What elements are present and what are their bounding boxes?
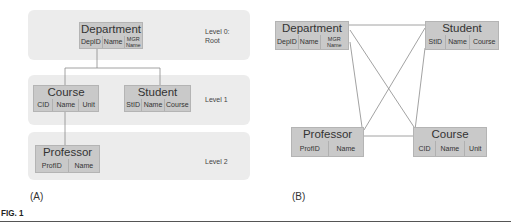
panel-a-label: (A) [30, 191, 43, 202]
entity-b-student: Student StID Name Course [425, 21, 499, 50]
entity-b-department: Department DepID Name MGR Name [275, 21, 349, 50]
entity-title: Department [276, 22, 348, 35]
entity-b-professor: Professor ProfID Name [291, 127, 364, 157]
attr-name: Name [142, 99, 164, 111]
attr-unit: Unit [79, 99, 98, 111]
attr-name: Name [329, 141, 363, 156]
attr-stid: StID [426, 35, 446, 49]
attr-name: Name [103, 36, 125, 48]
entity-a-professor: Professor ProfID Name [35, 145, 100, 173]
attr-profid: ProfID [36, 159, 69, 172]
level-0-label: Level 0: Root [205, 27, 230, 45]
entity-title: Course [34, 86, 98, 99]
level-0-label-line2: Root [205, 36, 230, 45]
level-1-label: Level 1 [205, 95, 228, 104]
edge-b-student-professor [364, 28, 425, 130]
attr-profid: ProfID [292, 141, 329, 156]
attr-name: Name [446, 35, 471, 49]
caption-rule [0, 221, 511, 222]
edge-b-department-professor [350, 42, 362, 127]
attr-depid: DepID [276, 35, 299, 49]
attr-cid: CID [414, 141, 436, 156]
entity-a-student: Student StID Name Course [124, 85, 191, 112]
attr-depid: DepID [80, 36, 103, 48]
attr-course: Course [165, 99, 190, 111]
panel-b-label: (B) [292, 191, 305, 202]
attr-name: Name [436, 141, 465, 156]
attr-name: Name [299, 35, 321, 49]
entity-b-course: Course CID Name Unit [413, 127, 487, 157]
edge-b-department-course [350, 30, 414, 127]
attr-stid: StID [125, 99, 142, 111]
attr-name: Name [69, 159, 99, 172]
figure-label: FIG. 1 [1, 207, 23, 218]
entity-title: Professor [36, 146, 99, 159]
entity-a-course: Course CID Name Unit [33, 85, 99, 112]
entity-a-department: Department DepID Name MGR Name [79, 22, 143, 49]
entity-title: Student [426, 22, 498, 35]
entity-title: Department [80, 23, 142, 36]
attr-unit: Unit [465, 141, 486, 156]
edge-b-student-course [415, 48, 425, 130]
entity-title: Student [125, 86, 190, 99]
entity-title: Course [414, 128, 486, 141]
entity-title: Professor [292, 128, 363, 141]
attr-name: Name [53, 99, 79, 111]
attr-course: Course [470, 35, 498, 49]
attr-mgr-name: MGR Name [125, 36, 142, 48]
attr-mgr-name: MGR Name [321, 35, 348, 49]
level-2-label: Level 2 [205, 157, 228, 166]
attr-cid: CID [34, 99, 53, 111]
level-0-label-line1: Level 0: [205, 27, 230, 36]
